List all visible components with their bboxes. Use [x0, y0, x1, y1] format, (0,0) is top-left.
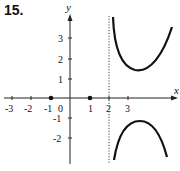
- graph: x y -3 -2 -1 0 1 2 3 3 2 1 -1 -2: [0, 0, 180, 171]
- x-tick: 1: [88, 103, 93, 114]
- point-1: [88, 96, 93, 101]
- upper-branch: [113, 17, 172, 70]
- y-axis-label: y: [65, 1, 71, 13]
- x-tick: 3: [125, 103, 130, 114]
- y-tick: -1: [53, 113, 61, 124]
- x-axis-label: x: [173, 84, 179, 96]
- x-tick: -1: [44, 103, 52, 114]
- lower-branch: [114, 121, 167, 160]
- y-tick: -2: [53, 133, 61, 144]
- point-neg1: [49, 96, 54, 101]
- y-tick: 1: [58, 74, 63, 85]
- y-tick: 3: [58, 33, 63, 44]
- y-tick: 2: [58, 54, 63, 65]
- x-tick: -2: [24, 103, 32, 114]
- y-axis-arrow-icon: [68, 14, 73, 21]
- x-axis-arrow-icon: [171, 96, 178, 101]
- x-tick: -3: [5, 103, 13, 114]
